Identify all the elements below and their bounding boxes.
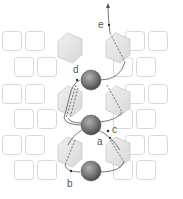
grid-square	[149, 32, 168, 51]
grid-square	[137, 58, 156, 77]
grid-square	[3, 136, 22, 155]
grid-square	[149, 136, 168, 155]
grid-square	[149, 85, 168, 104]
sphere-group	[81, 70, 101, 181]
marker-d	[76, 79, 78, 81]
grid-square	[3, 85, 22, 104]
grid-square	[137, 161, 156, 180]
arrowhead-e	[106, 3, 110, 8]
label-c: c	[112, 124, 117, 135]
square-grid	[3, 32, 168, 180]
grid-square	[38, 161, 57, 180]
grid-square	[3, 32, 22, 51]
label-b: b	[67, 178, 73, 189]
grid-square	[15, 58, 34, 77]
marker-b	[70, 170, 72, 172]
path-e	[108, 6, 110, 33]
grid-square	[137, 110, 156, 129]
diagram-canvas: e d c a b	[0, 0, 183, 199]
sphere-top	[81, 70, 101, 90]
hexagon	[58, 33, 82, 63]
path-left-to-mid-sphere-2	[68, 118, 82, 123]
hexagon	[58, 86, 82, 116]
label-d: d	[73, 64, 79, 75]
grid-square	[38, 110, 57, 129]
sphere-bottom	[81, 161, 101, 181]
grid-square	[26, 85, 45, 104]
grid-square	[15, 161, 34, 180]
grid-square	[15, 110, 34, 129]
marker-c	[107, 130, 110, 133]
path-left-to-mid-sphere-1	[64, 118, 82, 125]
marker-e	[108, 24, 110, 26]
label-a: a	[97, 136, 103, 147]
grid-square	[38, 58, 57, 77]
grid-square	[26, 136, 45, 155]
grid-square	[26, 32, 45, 51]
sphere-middle	[81, 115, 101, 135]
label-e: e	[98, 19, 104, 30]
